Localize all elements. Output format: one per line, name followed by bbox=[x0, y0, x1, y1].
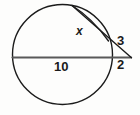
label-external-3: 3 bbox=[117, 34, 124, 47]
geometry-figure: x 10 3 2 bbox=[0, 0, 140, 115]
circle-shape bbox=[13, 5, 113, 105]
label-external-2: 2 bbox=[117, 58, 124, 71]
label-chord-x: x bbox=[76, 25, 83, 37]
label-diameter-10: 10 bbox=[54, 60, 68, 73]
